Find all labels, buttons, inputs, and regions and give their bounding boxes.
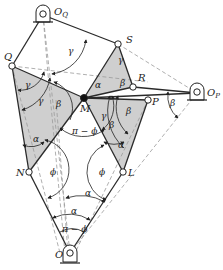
label-M: M: [79, 103, 91, 114]
link-L-O: [70, 172, 123, 253]
pivot-OP: [187, 83, 207, 100]
label-S: S: [126, 34, 133, 45]
svg-text:β: β: [108, 120, 114, 130]
svg-text:β: β: [169, 98, 175, 108]
link-OQ-Q: [12, 15, 43, 66]
joint-S: [115, 41, 121, 47]
svg-text:γ: γ: [118, 55, 124, 65]
label-Q: Q: [4, 51, 12, 62]
svg-text:β: β: [55, 99, 61, 109]
svg-text:γ: γ: [68, 46, 74, 56]
svg-text:α: α: [95, 80, 101, 90]
svg-text:β: β: [119, 78, 125, 88]
joint-P: [145, 97, 151, 103]
joint-N: [26, 169, 32, 175]
svg-text:γ: γ: [101, 111, 107, 121]
label-R: R: [137, 72, 146, 83]
joint-M: [81, 95, 88, 102]
svg-text:β: β: [125, 106, 131, 116]
link-OQ-S: [43, 15, 118, 44]
svg-text:α: α: [71, 206, 77, 216]
joint-L: [120, 169, 126, 175]
triangle-SMR: [84, 44, 133, 98]
label-O: O: [55, 249, 63, 260]
svg-text:γ: γ: [38, 96, 44, 106]
label-OQ: OQ: [54, 6, 68, 19]
joint-R: [130, 84, 136, 90]
pivot-OQ: [33, 5, 53, 22]
label-P: P: [151, 96, 159, 107]
label-OP: OP: [207, 87, 220, 100]
svg-text:α: α: [33, 134, 39, 144]
arc-phi-N: [45, 140, 69, 198]
svg-text:ϕ: ϕ: [50, 167, 56, 177]
label-L: L: [127, 167, 135, 178]
svg-text:ϕ: ϕ: [99, 167, 105, 177]
svg-text:π − ϕ: π − ϕ: [71, 126, 97, 136]
link-N-O: [29, 172, 70, 253]
joint-Q: [9, 63, 15, 69]
link-R-OP: [133, 87, 197, 93]
svg-text:α: α: [118, 140, 124, 150]
linkage-mechanism-diagram: OQ Q S M R P OP N L O γ γ γ γ β α β γ β …: [0, 0, 223, 270]
svg-text:γ: γ: [25, 80, 31, 90]
svg-text:α: α: [85, 188, 91, 198]
svg-text:π − ϕ: π − ϕ: [61, 224, 87, 234]
label-N: N: [15, 167, 26, 178]
